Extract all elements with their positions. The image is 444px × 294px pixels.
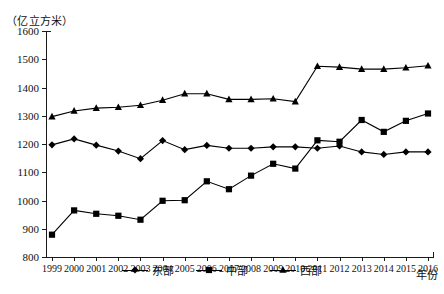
y-axis-tick-label: 1200 (17, 139, 39, 150)
square-marker-icon (314, 137, 320, 143)
x-axis-tick-label: 2012 (330, 264, 350, 274)
x-axis-tick (384, 257, 385, 261)
y-axis-tick-label: 1600 (17, 26, 39, 37)
x-axis-title: 年份 (416, 266, 438, 282)
square-marker-icon (49, 232, 55, 238)
triangle-marker-icon (314, 62, 321, 69)
x-axis-tick (229, 257, 230, 261)
x-axis-tick-label: 1999 (42, 264, 62, 274)
diamond-marker-icon (314, 145, 321, 152)
square-marker-icon (71, 207, 77, 213)
square-marker-icon (381, 129, 387, 135)
x-axis-tick (362, 257, 363, 261)
y-axis-tick-label: 1400 (17, 82, 39, 93)
plot-area: 1600150014001300120011001000900800 19992… (46, 31, 434, 257)
x-axis-tick (118, 257, 119, 261)
x-axis-tick (52, 257, 53, 261)
x-axis-tick-label: 2004 (153, 264, 173, 274)
x-axis-tick-label: 2002 (108, 264, 128, 274)
diamond-marker-icon (181, 146, 188, 153)
series-diamond (48, 135, 431, 162)
diamond-marker-icon (247, 145, 254, 152)
x-axis-tick-label: 2013 (352, 264, 372, 274)
series-layer (46, 31, 434, 257)
x-axis-tick-label: 2005 (175, 264, 195, 274)
square-marker-icon (425, 110, 431, 116)
x-axis-line (46, 257, 434, 258)
y-axis-tick-label: 800 (23, 252, 40, 263)
x-axis-tick (406, 257, 407, 261)
square-marker-icon (115, 213, 121, 219)
x-axis-tick (74, 257, 75, 261)
square-marker-icon (93, 211, 99, 217)
x-axis-tick (295, 257, 296, 261)
square-marker-icon (403, 118, 409, 124)
x-axis-tick-label: 2000 (64, 264, 84, 274)
diamond-marker-icon (71, 135, 78, 142)
triangle-marker-icon (270, 95, 277, 102)
x-axis-tick (251, 257, 252, 261)
diamond-marker-icon (292, 143, 299, 150)
diamond-marker-icon (270, 143, 277, 150)
x-axis-tick (273, 257, 274, 261)
y-axis-tick-label: 1000 (17, 195, 39, 206)
series-triangle (48, 62, 431, 119)
x-axis-tick (96, 257, 97, 261)
series-line (52, 66, 428, 117)
x-axis-tick-label: 2001 (86, 264, 106, 274)
y-axis-tick (42, 257, 46, 258)
y-axis-tick-label: 1100 (17, 167, 39, 178)
x-axis-tick-label: 2014 (374, 264, 394, 274)
diamond-marker-icon (115, 147, 122, 154)
square-marker-icon (248, 173, 254, 179)
y-axis-tick-label: 900 (23, 223, 40, 234)
x-axis-tick-label: 2011 (308, 264, 328, 274)
series-square (49, 110, 431, 237)
x-axis-tick-label: 2015 (396, 264, 416, 274)
diamond-marker-icon (203, 142, 210, 149)
x-axis-tick-label: 2003 (130, 264, 150, 274)
x-axis-tick (163, 257, 164, 261)
square-marker-icon (204, 178, 210, 184)
x-axis-tick-label: 2006 (197, 264, 217, 274)
square-marker-icon (270, 161, 276, 167)
series-line (52, 139, 428, 159)
x-axis-tick-label: 2007 (219, 264, 239, 274)
diamond-marker-icon (380, 151, 387, 158)
diamond-marker-icon (225, 145, 232, 152)
x-axis-tick (185, 257, 186, 261)
x-axis-tick (428, 257, 429, 261)
diamond-marker-icon (358, 148, 365, 155)
x-axis-tick (140, 257, 141, 261)
x-axis-tick (207, 257, 208, 261)
diamond-marker-icon (48, 141, 55, 148)
line-chart: （亿立方米） 160015001400130012001100100090080… (0, 0, 444, 294)
y-axis-tick-label: 1500 (17, 54, 39, 65)
x-axis-tick (340, 257, 341, 261)
y-axis-tick-label: 1300 (17, 110, 39, 121)
triangle-marker-icon (424, 62, 431, 69)
square-marker-icon (226, 186, 232, 192)
square-marker-icon (336, 139, 342, 145)
square-marker-icon (292, 165, 298, 171)
diamond-marker-icon (402, 148, 409, 155)
square-marker-icon (182, 197, 188, 203)
x-axis-tick (317, 257, 318, 261)
diamond-marker-icon (424, 148, 431, 155)
x-axis-tick-label: 2009 (263, 264, 283, 274)
square-marker-icon (359, 117, 365, 123)
square-marker-icon (159, 198, 165, 204)
diamond-marker-icon (93, 142, 100, 149)
x-axis-tick-label: 2008 (241, 264, 261, 274)
square-marker-icon (137, 217, 143, 223)
x-axis-tick-label: 2010 (285, 264, 305, 274)
series-line (52, 113, 428, 234)
